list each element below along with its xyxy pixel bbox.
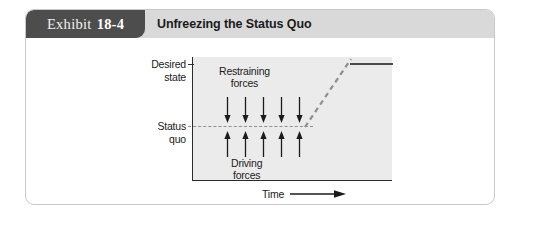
y-tick-statusquo-line1: Status [130,120,186,133]
exhibit-card: Exhibit 18-4 Unfreezing the Status Quo D… [25,9,495,205]
arrow-up-icon [295,131,304,157]
arrow-down-icon [223,97,232,123]
exhibit-number: 18-4 [97,16,124,33]
y-tick-desired-line2: state [130,71,186,84]
arrow-down-icon [277,97,286,123]
arrow-up-icon [223,131,232,157]
y-tick-statusquo-line2: quo [130,133,186,146]
driving-forces-line2: forces [231,169,262,181]
exhibit-number-tab: Exhibit 18-4 [26,10,145,38]
driving-forces-line1: Driving [231,157,262,169]
y-axis-tick-desired-state [188,64,194,65]
driving-forces-label: Driving forces [231,157,262,181]
change-ramp-dashed-line [305,57,393,129]
x-axis-label: Time [262,188,346,200]
restraining-forces-arrows [223,97,304,123]
restraining-forces-label: Restraining forces [219,65,270,89]
arrow-down-icon [259,97,268,123]
page-root: Exhibit 18-4 Unfreezing the Status Quo D… [0,0,533,234]
y-tick-label-desired-state: Desired state [130,58,186,83]
figure-area: Desired state Status quo Restraining [26,38,494,204]
arrow-up-icon [259,131,268,157]
desired-state-solid-line [350,63,393,65]
status-quo-dashed-line [188,126,313,127]
driving-forces-arrows [223,131,304,157]
exhibit-title: Unfreezing the Status Quo [157,10,311,38]
x-axis-label-text: Time [262,188,284,200]
exhibit-label: Exhibit [47,16,92,33]
restraining-forces-line2: forces [219,77,270,89]
exhibit-header: Exhibit 18-4 Unfreezing the Status Quo [26,10,494,38]
arrow-down-icon [241,97,250,123]
y-tick-desired-line1: Desired [130,58,186,71]
arrow-up-icon [277,131,286,157]
arrow-down-icon [295,97,304,123]
arrow-up-icon [241,131,250,157]
arrow-right-icon [290,189,346,199]
chart-plot-area: Restraining forces [192,57,392,181]
restraining-forces-line1: Restraining [219,65,270,77]
y-tick-label-status-quo: Status quo [130,120,186,145]
